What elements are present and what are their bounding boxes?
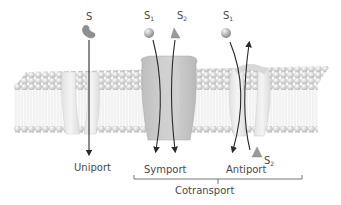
solute-s1-subscript: 1 — [150, 15, 154, 22]
solute-s-label-text: S — [86, 11, 92, 22]
solute-s-bean-icon — [82, 25, 95, 38]
solute-s-label: S — [86, 11, 92, 22]
uniport-label: Uniport — [74, 162, 111, 173]
membrane-transport-diagram: S S1 S2 S1 S2 Uniport Symport Antiport C… — [0, 0, 341, 205]
antiport-label: Antiport — [226, 164, 266, 175]
symport-protein — [141, 56, 197, 140]
solute-s1-label: S1 — [144, 10, 154, 22]
solute-s1-sphere-icon — [144, 28, 154, 38]
solute-s1-antiport-sphere-icon — [221, 28, 231, 38]
cotransport-bracket — [134, 175, 302, 184]
solute-s2-subscript: 2 — [183, 15, 187, 22]
solute-s1-antiport-subscript: 1 — [229, 15, 233, 22]
solute-s2-pyramid-icon — [171, 28, 180, 38]
solute-s2-antiport-subscript: 2 — [270, 160, 274, 167]
symport-label: Symport — [144, 164, 187, 175]
cotransport-label: Cotransport — [175, 185, 234, 196]
solute-s1-antiport-label: S1 — [223, 10, 233, 22]
solute-s2-label: S2 — [177, 10, 187, 22]
solute-s2-antiport-pyramid-icon — [252, 147, 262, 157]
